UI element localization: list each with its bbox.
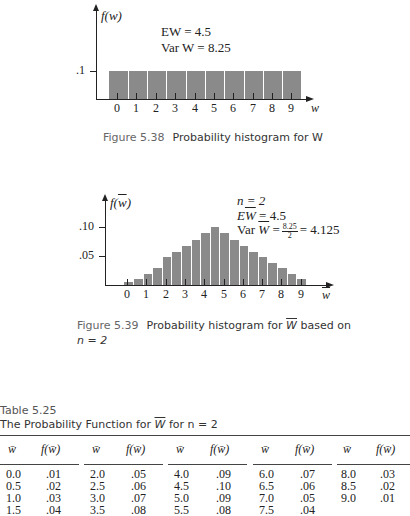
x-tick-label: 5 <box>217 287 231 302</box>
y-tick-label: .10 <box>79 219 94 234</box>
bar <box>166 71 186 99</box>
column-f: .03 .02 .01 <box>380 468 395 504</box>
column-f: .05 .06 .07 .08 <box>131 468 146 516</box>
x-tick <box>185 279 186 285</box>
x-tick-label: 8 <box>274 287 288 302</box>
table-cell: 1.5 <box>6 504 21 516</box>
x-tick-label: 6 <box>226 101 240 116</box>
bar <box>287 274 296 285</box>
table-cell: .04 <box>46 504 61 516</box>
bar <box>229 240 239 285</box>
bar <box>200 233 210 285</box>
x-tick <box>156 93 157 99</box>
caption-text: Probability histogram for W <box>173 131 323 144</box>
bar <box>123 282 133 285</box>
y-tick <box>90 71 97 72</box>
x-tick <box>136 93 137 99</box>
column-f: .09 .10 .09 .08 <box>216 468 231 516</box>
x-tick <box>301 279 302 285</box>
x-tick <box>127 279 128 285</box>
col-header-f: f(w̄) <box>126 442 145 457</box>
x-tick <box>281 279 282 285</box>
fraction-denominator: 2 <box>282 232 298 240</box>
y-tick <box>99 227 106 228</box>
bar <box>108 71 128 99</box>
x-tick <box>233 93 234 99</box>
col-header-w: w̄ <box>343 442 351 457</box>
x-tick-label: 9 <box>284 101 298 116</box>
table-title: Table 5.25 <box>0 404 56 417</box>
x-tick <box>195 93 196 99</box>
x-tick <box>253 93 254 99</box>
x-tick <box>272 93 273 99</box>
bar <box>133 279 143 285</box>
figure-number: Figure 5.39 <box>77 319 139 332</box>
bar <box>224 71 244 99</box>
annotation-var-label: Var <box>237 222 258 237</box>
figure-caption: Figure 5.38Probability histogram for W <box>103 131 323 144</box>
caption-w: W <box>286 319 297 332</box>
column-w: 6.0 6.5 7.0 7.5 <box>259 468 274 516</box>
x-tick-label: 1 <box>129 101 143 116</box>
annotation-mean: EW = 4.5 <box>161 24 211 40</box>
bar <box>181 246 191 285</box>
header-rule <box>0 464 79 465</box>
bar <box>277 268 287 285</box>
bar <box>219 233 229 285</box>
table-cell: 5.5 <box>174 504 189 516</box>
x-tick-label: 0 <box>120 287 134 302</box>
x-axis <box>96 99 308 100</box>
annotation-var-eq: = <box>269 222 280 237</box>
x-tick-label: 3 <box>168 101 182 116</box>
table-subtitle-end: for n = 2 <box>165 418 217 431</box>
bar <box>191 240 200 285</box>
caption-text-end: based on <box>297 319 351 332</box>
figure-number: Figure 5.38 <box>103 131 165 144</box>
x-tick-label: 8 <box>265 101 279 116</box>
x-tick <box>262 279 263 285</box>
x-tick-label: 4 <box>197 287 211 302</box>
y-axis-arrow-icon <box>102 194 108 201</box>
col-header-f: f(w̄) <box>41 442 60 457</box>
column-w: 2.0 2.5 3.0 3.5 <box>90 468 105 516</box>
y-tick-label: .1 <box>76 63 85 78</box>
x-tick <box>243 279 244 285</box>
col-header-w: w̄ <box>92 442 100 457</box>
bar <box>248 252 258 285</box>
header-rule <box>168 464 247 465</box>
annotation-var-value: = 4.125 <box>300 222 340 237</box>
header-rule <box>253 464 332 465</box>
x-axis-label: w <box>311 101 319 116</box>
x-tick <box>175 93 176 99</box>
caption-text: Probability histogram for <box>147 319 287 332</box>
annotation-mean-e: E <box>237 208 245 223</box>
table-subtitle: The Probability Function for W for n = 2 <box>0 418 218 431</box>
fraction: 8.252 <box>282 223 298 240</box>
x-tick <box>166 279 167 285</box>
x-tick-label: 1 <box>139 287 153 302</box>
annotation-var-w: W <box>258 222 269 237</box>
table-header-row: w̄ f(w̄) w̄ f(w̄) w̄ f(w̄) w̄ f(w̄) w̄ f… <box>0 440 410 460</box>
bar <box>143 274 152 285</box>
bar <box>152 268 162 285</box>
bar <box>128 71 147 99</box>
x-tick <box>214 93 215 99</box>
table-subtitle-text: The Probability Function for <box>0 418 155 431</box>
x-tick-label: 2 <box>159 287 173 302</box>
y-tick <box>99 256 106 257</box>
table-cell: 9.0 <box>341 492 356 504</box>
x-axis <box>105 285 328 286</box>
table-cell: .01 <box>380 492 395 504</box>
bar <box>210 227 219 285</box>
x-tick-label: 3 <box>178 287 192 302</box>
col-header-w: w̄ <box>8 442 16 457</box>
y-axis-label: f(w) <box>110 195 131 211</box>
x-tick <box>146 279 147 285</box>
x-tick-label: 2 <box>149 101 163 116</box>
x-tick-label: 0 <box>110 101 124 116</box>
table-cell: .04 <box>300 504 315 516</box>
annotation-variance: Var W =8.252= 4.125 <box>237 222 340 240</box>
x-tick <box>224 279 225 285</box>
x-tick <box>291 93 292 99</box>
y-axis <box>96 8 97 100</box>
